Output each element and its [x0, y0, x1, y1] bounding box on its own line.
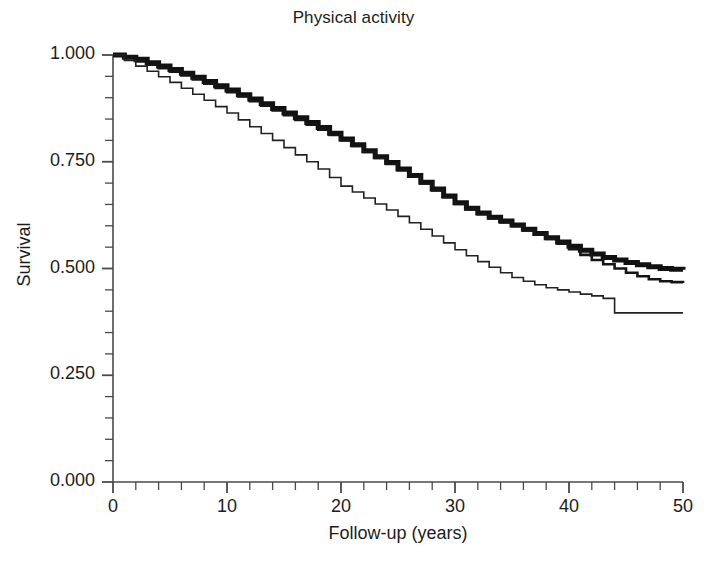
x-tick-label: 20 — [311, 496, 371, 517]
series-curve-thin — [113, 55, 683, 313]
x-tick-label: 40 — [539, 496, 599, 517]
y-tick-label: 0.500 — [0, 257, 95, 278]
y-tick-label: 0.250 — [0, 363, 95, 384]
series-curve-thick — [113, 55, 683, 270]
x-tick-label: 30 — [425, 496, 485, 517]
x-tick-label: 10 — [197, 496, 257, 517]
y-tick-label: 1.000 — [0, 43, 95, 64]
series-curve-medium — [113, 55, 683, 283]
y-tick-label: 0.750 — [0, 150, 95, 171]
x-tick-label: 50 — [653, 496, 707, 517]
survival-chart-figure: Physical activity Survival Follow-up (ye… — [0, 0, 707, 565]
x-axis-label: Follow-up (years) — [113, 523, 683, 544]
x-tick-label: 0 — [83, 496, 143, 517]
y-tick-label: 0.000 — [0, 470, 95, 491]
y-axis-label: Survival — [14, 155, 35, 355]
plot-area — [0, 0, 707, 565]
